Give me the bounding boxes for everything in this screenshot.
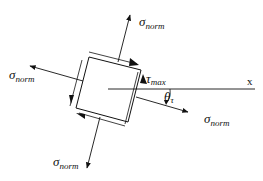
- shear-arrow-bottom-icon: [76, 113, 85, 119]
- stress-element-diagram: x σnorm σnorm σnorm σnorm τmax θτ: [0, 0, 263, 181]
- stress-element-square: [76, 57, 141, 122]
- sigma-arrow-left: [30, 66, 83, 81]
- sigma-bottom-label: σnorm: [53, 154, 79, 171]
- sigma-arrow-right: [136, 97, 188, 112]
- sigma-top-label: σnorm: [139, 14, 165, 31]
- shear-line-right: [125, 72, 138, 124]
- x-axis-label: x: [247, 75, 253, 87]
- sigma-arrow-top: [118, 15, 130, 62]
- sigma-arrow-bottom: [87, 117, 100, 168]
- tau-max-label: τmax: [146, 71, 166, 87]
- shear-arrow-left-icon: [69, 95, 74, 104]
- sigma-left-label: σnorm: [9, 67, 35, 84]
- shear-arrow-top-icon: [129, 58, 139, 66]
- sigma-right-label: σnorm: [204, 111, 230, 128]
- theta-tau-label: θτ: [164, 89, 174, 105]
